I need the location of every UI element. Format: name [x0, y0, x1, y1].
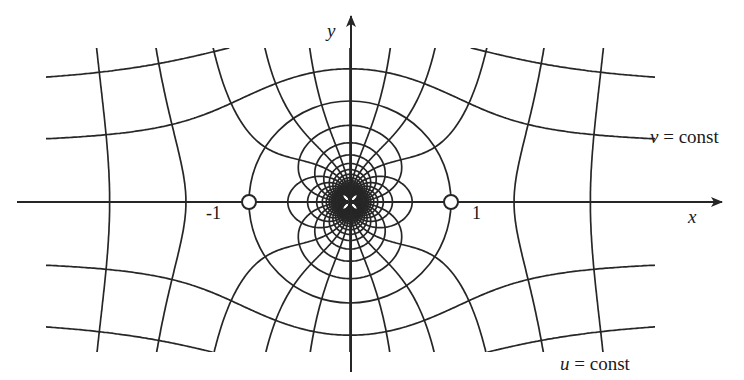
- y-axis-label: y: [327, 21, 335, 40]
- u-const-curve: [97, 48, 350, 352]
- x-axis-label: x: [688, 207, 696, 226]
- u-const-curve: [350, 48, 603, 352]
- tick-label-minus-one: -1: [206, 204, 221, 222]
- contour-grid: [0, 0, 744, 380]
- v-const-text: = const: [658, 126, 718, 147]
- critical-point-minus-one-marker: [242, 195, 256, 209]
- critical-point-plus-one-marker: [444, 195, 458, 209]
- u-const-text: = const: [570, 353, 630, 374]
- tick-label-plus-one: 1: [472, 204, 481, 222]
- u-const-annotation: u = const: [560, 354, 630, 373]
- conformal-map-diagram: y x -1 1 v = const u = const: [0, 0, 744, 380]
- u-variable: u: [560, 353, 570, 374]
- v-const-annotation: v = const: [650, 127, 719, 146]
